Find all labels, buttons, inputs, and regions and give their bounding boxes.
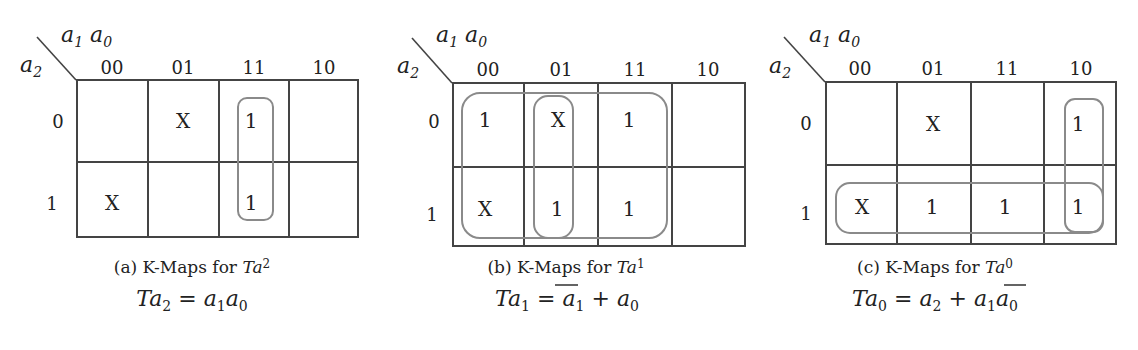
caption: (b) K-Maps for Ta1 (487, 257, 644, 277)
row-header: 1 (426, 204, 437, 225)
panel-a: a1 a0 a2 00 01 11 10 0 1 X 1 X 1 (a) K-M… (20, 22, 358, 314)
col-header: 00 (101, 57, 124, 78)
cell: 1 (926, 195, 939, 219)
col-header: 01 (922, 58, 945, 79)
kmap-grid (77, 80, 358, 237)
cell: 1 (551, 197, 564, 221)
cell: X (176, 109, 191, 133)
row-header: 1 (800, 203, 811, 224)
col-var-label: a1 a0 (61, 22, 112, 50)
caption: (c) K-Maps for Ta0 (857, 257, 1013, 277)
caption: (a) K-Maps for Ta2 (114, 257, 270, 277)
cell: 1 (623, 197, 636, 221)
row-var-label: a2 (397, 53, 419, 81)
row-header: 0 (800, 113, 811, 134)
cell: 1 (623, 108, 636, 132)
cell: X (926, 112, 941, 136)
row-header: 1 (46, 193, 57, 214)
cell: 1 (1072, 112, 1085, 136)
cell: X (855, 195, 870, 219)
cell: X (551, 108, 566, 132)
cell: 1 (999, 195, 1012, 219)
row-var-label: a2 (769, 53, 791, 81)
group-loop (836, 183, 1103, 233)
col-header: 11 (243, 57, 266, 78)
col-header: 00 (849, 58, 872, 79)
kmap-figure: a1 a0 a2 00 01 11 10 0 1 X 1 X 1 (a) K-M… (0, 0, 1138, 350)
col-header: 11 (996, 58, 1019, 79)
cell: 1 (1072, 195, 1085, 219)
col-header: 01 (172, 57, 195, 78)
col-header: 10 (697, 59, 720, 80)
cell: 1 (245, 109, 258, 133)
col-header: 11 (624, 59, 647, 80)
equation: Ta1 = a1 + a0 (495, 286, 639, 314)
row-header: 0 (52, 111, 63, 132)
row-var-label: a2 (20, 52, 42, 80)
col-var-label: a1 a0 (809, 22, 860, 50)
col-header: 10 (1070, 58, 1093, 79)
equation: Ta2 = a1a0 (136, 286, 248, 314)
cell: 1 (479, 108, 492, 132)
col-header: 00 (477, 59, 500, 80)
cell: X (105, 191, 120, 215)
panel-b: a1 a0 a2 00 01 11 10 0 1 1 X 1 X 1 1 (b)… (397, 22, 745, 314)
cell: X (478, 197, 493, 221)
row-header: 0 (428, 111, 439, 132)
cell: 1 (245, 191, 258, 215)
col-header: 10 (313, 57, 336, 78)
equation: Ta0 = a2 + a1a0 (852, 286, 1018, 314)
col-var-label: a1 a0 (436, 22, 487, 50)
panel-c: a1 a0 a2 00 01 11 10 0 1 X 1 X 1 1 1 (c)… (769, 22, 1116, 314)
col-header: 01 (550, 59, 573, 80)
